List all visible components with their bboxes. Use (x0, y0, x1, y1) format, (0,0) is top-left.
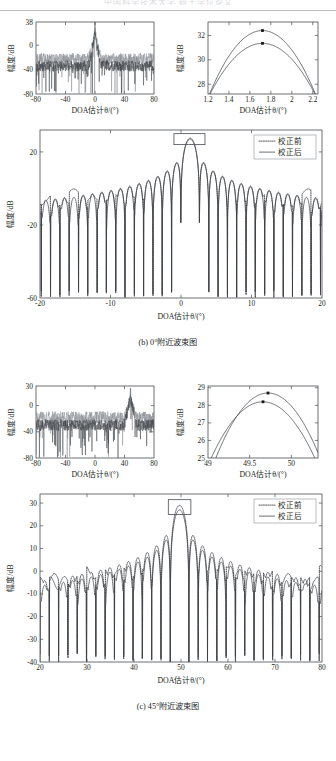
svg-text:49.5: 49.5 (243, 459, 256, 468)
svg-text:-10: -10 (27, 589, 37, 598)
svg-text:DOA估计θ/(°): DOA估计θ/(°) (71, 105, 119, 115)
svg-text:1.8: 1.8 (266, 95, 276, 104)
svg-text:26: 26 (198, 436, 206, 445)
inset-wide-spectrum-45deg: -80-4004080-80-40030DOA估计θ/(°)幅度/dB (0, 378, 168, 486)
svg-text:40: 40 (130, 663, 138, 672)
inset-zoom-peak-0deg: 1.21.41.61.822.2283032DOA估计θ/(°)幅度/dB (168, 14, 336, 122)
svg-text:30: 30 (30, 499, 38, 508)
svg-text:10: 10 (30, 544, 38, 553)
svg-text:幅度/dB: 幅度/dB (5, 200, 15, 227)
svg-text:40: 40 (121, 459, 129, 468)
svg-text:1.2: 1.2 (203, 95, 213, 104)
svg-text:20: 20 (318, 299, 326, 308)
svg-text:幅度/dB: 幅度/dB (6, 408, 16, 435)
svg-text:32: 32 (198, 31, 206, 40)
svg-text:DOA估计θ/(°): DOA估计θ/(°) (239, 105, 287, 115)
svg-text:2: 2 (290, 95, 294, 104)
svg-text:校正后: 校正后 (278, 147, 302, 157)
figure-b: -80-4004080-80-40038DOA估计θ/(°)幅度/dB 1.21… (0, 14, 336, 347)
svg-text:幅度/dB: 幅度/dB (6, 44, 16, 71)
svg-text:50: 50 (288, 459, 296, 468)
svg-text:幅度/dB: 幅度/dB (5, 564, 15, 591)
svg-text:-80: -80 (23, 90, 33, 99)
main-beampattern-45deg: 20304050607080-40-30-20-100102030DOA估计θ/… (0, 486, 336, 698)
svg-text:校正前: 校正前 (278, 500, 302, 510)
figure-c-caption: (c) 45°附近波束图 (0, 699, 336, 711)
svg-text:38: 38 (26, 18, 34, 27)
svg-text:20: 20 (30, 148, 38, 157)
svg-text:20: 20 (36, 663, 44, 672)
svg-text:DOA估计θ/(°): DOA估计θ/(°) (157, 675, 205, 685)
svg-text:50: 50 (177, 663, 185, 672)
svg-text:60: 60 (224, 663, 232, 672)
svg-text:校正后: 校正后 (278, 511, 302, 521)
svg-text:28: 28 (198, 401, 206, 410)
header-divider (0, 10, 336, 11)
inset-zoom-peak-45deg: 4949.5502526272829DOA估计θ/(°)幅度/dB (168, 378, 336, 486)
svg-text:-40: -40 (23, 65, 33, 74)
svg-text:30: 30 (198, 55, 206, 64)
svg-text:DOA估计θ/(°): DOA估计θ/(°) (157, 311, 205, 321)
svg-text:-30: -30 (27, 635, 37, 644)
svg-text:25: 25 (198, 454, 206, 463)
svg-text:20: 20 (30, 521, 38, 530)
svg-text:80: 80 (150, 95, 158, 104)
inset-wide-spectrum-0deg: -80-4004080-80-40038DOA估计θ/(°)幅度/dB (0, 14, 168, 122)
svg-text:1.6: 1.6 (245, 95, 255, 104)
svg-text:-40: -40 (61, 459, 71, 468)
svg-text:DOA估计θ/(°): DOA估计θ/(°) (71, 469, 119, 479)
page-header-watermark: 中国科学技术大学 硕士学位论文 (0, 0, 336, 5)
svg-text:27: 27 (198, 418, 206, 427)
main-beampattern-0deg: -20-1001020-60-2020DOA估计θ/(°)幅度/dB校正前校正后 (0, 122, 336, 334)
svg-text:-20: -20 (27, 221, 37, 230)
svg-text:DOA估计θ/(°): DOA估计θ/(°) (239, 469, 287, 479)
svg-text:-40: -40 (27, 658, 37, 667)
svg-text:10: 10 (248, 299, 256, 308)
svg-text:-40: -40 (23, 427, 33, 436)
svg-text:校正前: 校正前 (278, 136, 302, 146)
svg-text:2.2: 2.2 (308, 95, 318, 104)
svg-text:0: 0 (29, 41, 33, 50)
svg-text:-10: -10 (106, 299, 116, 308)
document-page: 中国科学技术大学 硕士学位论文 -80-4004080-80-40038DOA估… (0, 0, 336, 761)
figure-b-caption: (b) 0°附近波束图 (0, 335, 336, 347)
svg-text:0: 0 (33, 567, 37, 576)
svg-text:80: 80 (150, 459, 158, 468)
svg-text:30: 30 (26, 382, 34, 391)
svg-text:0: 0 (93, 459, 97, 468)
svg-text:30: 30 (83, 663, 91, 672)
svg-text:70: 70 (271, 663, 279, 672)
svg-text:0: 0 (29, 401, 33, 410)
svg-text:0: 0 (93, 95, 97, 104)
svg-text:幅度/dB: 幅度/dB (175, 408, 185, 435)
svg-text:29: 29 (198, 383, 206, 392)
svg-text:0: 0 (179, 299, 183, 308)
svg-text:幅度/dB: 幅度/dB (175, 44, 185, 71)
svg-text:-60: -60 (27, 294, 37, 303)
figure-c: -80-4004080-80-40030DOA估计θ/(°)幅度/dB 4949… (0, 378, 336, 711)
svg-text:-40: -40 (61, 95, 71, 104)
svg-text:-20: -20 (27, 612, 37, 621)
svg-text:80: 80 (318, 663, 326, 672)
svg-text:28: 28 (198, 80, 206, 89)
svg-text:49: 49 (204, 459, 212, 468)
svg-text:1.4: 1.4 (224, 95, 234, 104)
svg-text:40: 40 (121, 95, 129, 104)
svg-text:-80: -80 (23, 454, 33, 463)
